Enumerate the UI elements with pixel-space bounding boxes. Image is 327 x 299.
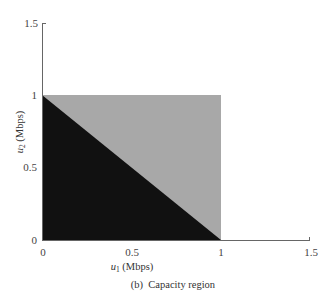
figure-caption: (b) Capacity region (131, 279, 216, 291)
capacity-region-chart: 0 0.5 1 1.5 0 0.5 1 1.5 u1 (Mbps) u2 (Mb… (0, 0, 327, 299)
y-tick-0.5: 0.5 (23, 161, 37, 173)
x-tick-0: 0 (40, 246, 46, 258)
x-axis-label: u1 (Mbps) (111, 261, 154, 274)
x-tick-1: 1 (218, 246, 224, 258)
x-tick-labels: 0 0.5 1 1.5 (40, 246, 318, 258)
y-tick-0: 0 (32, 234, 38, 246)
x-tick-1.5: 1.5 (304, 246, 318, 258)
y-tick-1: 1 (32, 89, 38, 101)
y-axis-label: u2 (Mbps) (14, 110, 27, 153)
y-tick-1.5: 1.5 (24, 17, 38, 29)
y-tick-labels: 0 0.5 1 1.5 (23, 17, 38, 246)
x-tick-0.5: 0.5 (125, 246, 139, 258)
plot-area (42, 95, 221, 240)
